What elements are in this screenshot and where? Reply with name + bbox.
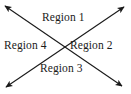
region-3-label: Region 3: [40, 62, 83, 74]
region-4-label: Region 4: [4, 39, 47, 51]
four-region-diagram: Region 1 Region 2 Region 3 Region 4: [0, 0, 131, 94]
region-2-label: Region 2: [70, 39, 113, 51]
region-1-label: Region 1: [42, 11, 85, 23]
